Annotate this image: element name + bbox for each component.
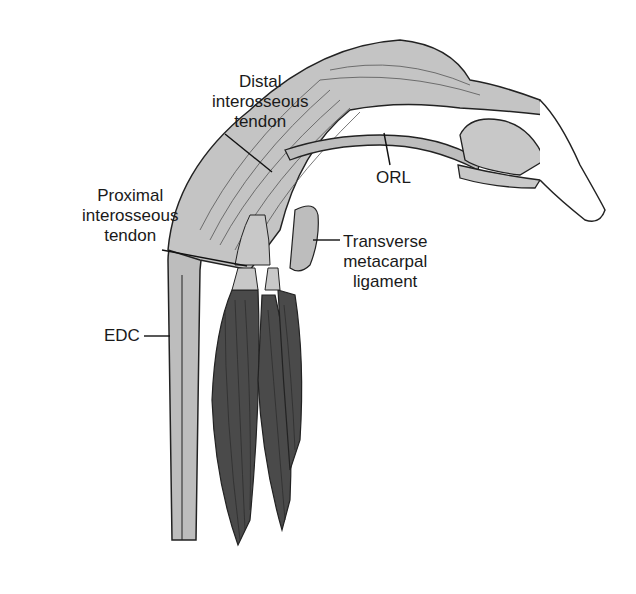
label-line: metacarpal xyxy=(343,252,427,272)
label-line: Distal xyxy=(212,72,308,92)
label-distal-interosseous-tendon: Distal interosseous tendon xyxy=(212,72,308,132)
fingertip xyxy=(540,100,605,221)
label-edc: EDC xyxy=(104,326,140,346)
interosseous-muscle-1 xyxy=(212,290,259,545)
label-line: interosseous xyxy=(82,206,178,226)
label-line: interosseous xyxy=(212,92,308,112)
label-line: tendon xyxy=(82,226,178,246)
label-line: Transverse xyxy=(343,232,427,252)
label-line: ligament xyxy=(343,272,427,292)
label-line: ORL xyxy=(376,168,411,188)
finger-anatomy-illustration xyxy=(0,0,636,594)
label-transverse-metacarpal-ligament: Transverse metacarpal ligament xyxy=(343,232,427,292)
label-proximal-interosseous-tendon: Proximal interosseous tendon xyxy=(82,186,178,246)
transverse-metacarpal-ligament-shape xyxy=(290,206,318,271)
label-orl: ORL xyxy=(376,168,411,188)
label-line: Proximal xyxy=(82,186,178,206)
label-line: tendon xyxy=(212,112,308,132)
label-line: EDC xyxy=(104,326,140,346)
